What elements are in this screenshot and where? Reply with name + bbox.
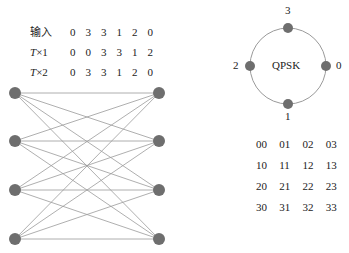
trellis-node-right xyxy=(153,87,165,99)
state-cell: 10 xyxy=(256,154,279,175)
state-cell: 20 xyxy=(256,175,279,196)
state-cell: 00 xyxy=(256,133,279,154)
state-cell: 12 xyxy=(303,154,326,175)
state-cell: 01 xyxy=(279,133,302,154)
state-cell: 23 xyxy=(326,175,349,196)
trellis-node-left xyxy=(9,184,21,196)
state-cell: 33 xyxy=(326,196,349,217)
constellation-point-0 xyxy=(321,61,331,71)
trellis-node-right xyxy=(153,184,165,196)
trellis-node-right xyxy=(153,233,165,245)
state-grid-row: 30 31 32 33 xyxy=(256,196,349,217)
state-cell: 22 xyxy=(303,175,326,196)
point-label-2: 2 xyxy=(233,59,239,71)
trellis-node-left xyxy=(9,233,21,245)
point-label-0: 0 xyxy=(336,59,342,71)
state-cell: 03 xyxy=(326,133,349,154)
state-cell: 32 xyxy=(303,196,326,217)
trellis-node-right xyxy=(153,135,165,147)
state-cell: 31 xyxy=(279,196,302,217)
state-cell: 13 xyxy=(326,154,349,175)
constellation-point-2 xyxy=(245,61,255,71)
constellation-point-3 xyxy=(283,23,293,33)
trellis-node-left xyxy=(9,87,21,99)
point-label-1: 1 xyxy=(285,110,291,122)
constellation-point-1 xyxy=(283,99,293,109)
state-cell: 02 xyxy=(303,133,326,154)
state-cell: 11 xyxy=(279,154,302,175)
state-grid-row: 10 11 12 13 xyxy=(256,154,349,175)
state-grid: 00 01 02 03 10 11 12 13 20 21 22 23 30 3… xyxy=(256,133,349,217)
state-grid-row: 00 01 02 03 xyxy=(256,133,349,154)
state-cell: 21 xyxy=(279,175,302,196)
state-cell: 30 xyxy=(256,196,279,217)
point-label-3: 3 xyxy=(285,4,291,16)
state-grid-row: 20 21 22 23 xyxy=(256,175,349,196)
trellis-node-left xyxy=(9,135,21,147)
constellation-title: QPSK xyxy=(272,59,300,71)
trellis-edges xyxy=(15,93,159,239)
